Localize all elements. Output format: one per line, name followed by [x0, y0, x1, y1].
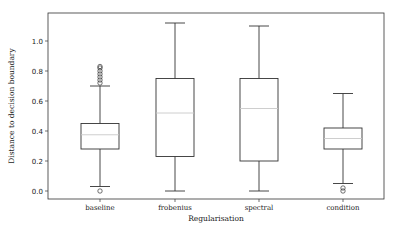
outlier-point	[98, 189, 102, 193]
plot-frame	[48, 13, 384, 199]
y-tick-label: 0.6	[32, 98, 44, 106]
iqr-box	[240, 79, 278, 162]
y-tick-label: 1.0	[32, 38, 43, 46]
y-tick-label: 0.8	[32, 68, 43, 76]
x-axis-title: Regularisation	[188, 214, 244, 223]
iqr-box	[156, 79, 194, 157]
box-plot-chart: 0.00.20.40.60.81.0 baselinefrobeniusspec…	[0, 0, 406, 235]
y-tick-label: 0.4	[32, 128, 44, 136]
y-tick-label: 0.2	[32, 158, 43, 166]
box-frobenius	[156, 23, 194, 191]
box-baseline	[81, 64, 119, 193]
outlier-point	[341, 186, 345, 190]
box-series	[81, 23, 362, 193]
x-tick-label-spectral: spectral	[245, 204, 274, 212]
box-spectral	[240, 26, 278, 191]
x-tick-label-condition: condition	[326, 204, 360, 212]
y-axis-title: Distance to decision boundary	[7, 48, 16, 164]
iqr-box	[81, 124, 119, 150]
x-axis: baselinefrobeniusspectralcondition	[85, 199, 360, 212]
y-tick-label: 0.0	[32, 188, 43, 196]
x-tick-label-frobenius: frobenius	[158, 204, 192, 212]
x-tick-label-baseline: baseline	[85, 204, 115, 212]
y-axis: 0.00.20.40.60.81.0	[32, 38, 48, 196]
box-condition	[324, 94, 362, 194]
